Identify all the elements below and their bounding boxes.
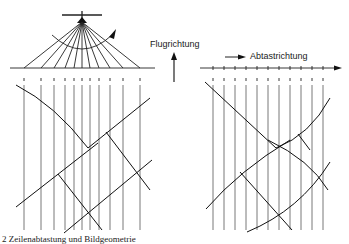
left-ticks bbox=[24, 78, 140, 81]
right-ticks bbox=[213, 78, 323, 81]
scan-fan-rays bbox=[24, 22, 140, 68]
left-features bbox=[16, 85, 152, 233]
scan-direction-label: Abtastrichtung bbox=[250, 52, 308, 61]
scan-arc-arrow-icon bbox=[109, 29, 116, 39]
right-scan-lines bbox=[213, 85, 323, 230]
figure-caption: 2 Zeilenabtastung und Bildgeometrie bbox=[2, 235, 136, 244]
flight-direction-arrowhead-icon bbox=[171, 52, 177, 60]
aircraft-icon bbox=[62, 11, 102, 23]
left-scan-lines bbox=[24, 85, 140, 230]
flight-direction-label: Flugrichtung bbox=[150, 40, 200, 49]
scan-axis-arrowhead-icon bbox=[334, 66, 342, 71]
